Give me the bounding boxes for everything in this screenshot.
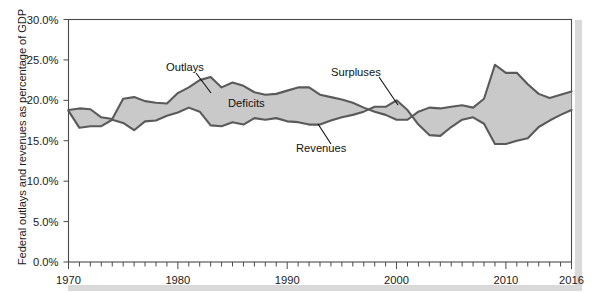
x-tick-label: 2010 [493, 274, 518, 286]
revenues-leader-line [318, 124, 331, 144]
y-axis-title: Federal outlays and revenues as percenta… [16, 0, 28, 275]
y-tick-label: 25.0% [27, 54, 59, 66]
y-tick-label: 10.0% [27, 175, 59, 187]
x-axis: 197019801990200020102016 [56, 262, 584, 286]
x-tick-label: 1970 [56, 274, 81, 286]
y-axis: 0.0%5.0%10.0%15.0%20.0%25.0%30.0% [27, 14, 69, 269]
surpluses-leader-line [379, 77, 398, 105]
x-tick-label: 2000 [384, 274, 409, 286]
y-tick-label: 20.0% [27, 94, 59, 106]
deficit-surplus-band [69, 65, 572, 144]
chart-figure: Federal outlays and revenues as percenta… [0, 0, 600, 293]
annotation-surpluses: Surpluses [331, 66, 381, 78]
area-chart-plot: 0.0%5.0%10.0%15.0%20.0%25.0%30.0% 197019… [0, 0, 600, 293]
annotation-deficits: Deficits [228, 97, 265, 109]
x-tick-label: 2016 [559, 274, 584, 286]
x-tick-label: 1980 [165, 274, 190, 286]
y-tick-label: 30.0% [27, 14, 59, 26]
annotation-outlays: Outlays [166, 61, 204, 73]
annotation-revenues: Revenues [296, 142, 347, 154]
y-tick-label: 15.0% [27, 135, 59, 147]
x-tick-label: 1990 [275, 274, 300, 286]
y-tick-label: 5.0% [33, 216, 59, 228]
page-shadow-right [575, 20, 582, 288]
y-tick-label: 0.0% [33, 256, 59, 268]
